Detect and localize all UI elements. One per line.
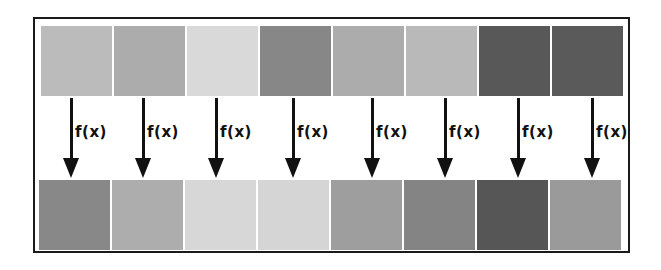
output-square-2 — [112, 180, 183, 250]
diagram-frame: f(x) f(x) f(x) f(x) f(x) f(x) f(x) f(x) — [33, 17, 630, 253]
output-square-5 — [331, 180, 402, 250]
output-square-6 — [404, 180, 475, 250]
function-label-4: f(x) — [297, 123, 329, 141]
function-label-6: f(x) — [449, 123, 481, 141]
input-square-1 — [41, 26, 112, 96]
output-row — [39, 180, 621, 250]
output-square-4 — [258, 180, 329, 250]
output-square-3 — [185, 180, 256, 250]
function-label-3: f(x) — [220, 123, 252, 141]
input-row — [41, 26, 623, 96]
function-label-8: f(x) — [596, 123, 628, 141]
input-square-5 — [333, 26, 404, 96]
input-square-7 — [479, 26, 550, 96]
input-square-2 — [114, 26, 185, 96]
function-label-1: f(x) — [75, 123, 107, 141]
output-square-8 — [550, 180, 621, 250]
function-label-5: f(x) — [376, 123, 408, 141]
output-square-7 — [477, 180, 548, 250]
function-label-2: f(x) — [147, 123, 179, 141]
input-square-4 — [260, 26, 331, 96]
input-square-3 — [187, 26, 258, 96]
output-square-1 — [39, 180, 110, 250]
input-square-6 — [406, 26, 477, 96]
input-square-8 — [552, 26, 623, 96]
function-label-7: f(x) — [522, 123, 554, 141]
